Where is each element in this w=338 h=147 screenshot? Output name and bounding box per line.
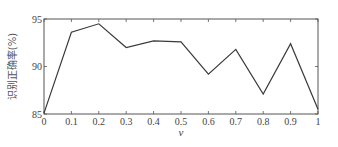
y-tick-label: 90 [32, 61, 42, 72]
line-chart: 00.10.20.30.40.50.60.70.80.91 859095 v 识… [0, 0, 338, 147]
x-tick-label: 0.7 [230, 116, 243, 127]
x-tick-label: 0 [42, 116, 47, 127]
x-tick-label: 0.8 [257, 116, 270, 127]
y-tick-label: 95 [32, 14, 42, 25]
x-tick-label: 1 [316, 116, 321, 127]
x-axis-label: v [179, 126, 184, 138]
y-tick-label: 85 [32, 109, 42, 120]
x-tick-label: 0.4 [147, 116, 160, 127]
x-tick-label: 0.9 [284, 116, 297, 127]
x-tick-label: 0.3 [120, 116, 133, 127]
y-axis-label: 识别正确率(%) [6, 33, 18, 100]
y-tick-labels: 859095 [32, 14, 42, 120]
x-tick-label: 0.2 [93, 116, 106, 127]
data-line [44, 24, 318, 113]
axis-ticks [44, 19, 318, 114]
x-tick-label: 0.6 [202, 116, 215, 127]
x-tick-label: 0.1 [65, 116, 78, 127]
plot-frame [44, 19, 318, 114]
